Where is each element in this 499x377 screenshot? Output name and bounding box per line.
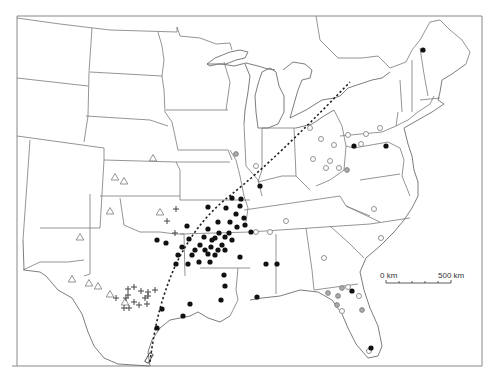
gray-dot-icon (340, 286, 345, 291)
triangle-icon (76, 234, 84, 241)
open-circle-icon (337, 166, 342, 171)
black-dot-icon (154, 237, 159, 242)
black-dot-icon (237, 203, 242, 208)
black-dot-icon (192, 247, 197, 252)
black-dot-icon (185, 261, 190, 266)
open-circle-icon (340, 309, 345, 314)
triangle-icon (106, 291, 114, 298)
black-dot-icon (197, 242, 202, 247)
gray-dot-icon (335, 303, 340, 308)
triangle-icon (111, 174, 119, 181)
open-circle-icon (372, 207, 377, 212)
scale-start-label: 0 km (380, 271, 398, 280)
gray-dot-icon (326, 291, 331, 296)
black-dot-icon (180, 313, 185, 318)
scale-end-label: 500 km (438, 271, 465, 280)
black-dot-icon (209, 237, 214, 242)
black-dot-markers (154, 47, 425, 350)
black-dot-icon (179, 244, 184, 249)
black-dot-icon (234, 224, 239, 229)
black-dot-icon (226, 230, 231, 235)
black-dot-icon (229, 237, 234, 242)
cross-icon (126, 305, 132, 311)
black-dot-icon (215, 247, 220, 252)
gray-dot-icon (234, 152, 239, 157)
black-dot-icon (154, 325, 159, 330)
cross-icon (136, 302, 142, 308)
black-dot-icon (241, 215, 246, 220)
open-circle-icon (311, 157, 316, 162)
open-circle-icon (359, 142, 364, 147)
triangle-icon (121, 299, 129, 306)
black-dot-icon (351, 143, 356, 148)
black-dot-icon (189, 252, 194, 257)
black-dot-icon (187, 301, 192, 306)
triangle-markers (68, 155, 164, 306)
black-dot-icon (383, 143, 388, 148)
cross-icon (131, 284, 137, 290)
cross-icon (125, 286, 131, 292)
gray-dot-icon (345, 168, 350, 173)
black-dot-icon (349, 288, 354, 293)
black-dot-icon (212, 252, 217, 257)
black-dot-icon (223, 205, 228, 210)
triangle-icon (106, 208, 114, 215)
black-dot-icon (221, 272, 226, 277)
cross-icon (138, 288, 144, 294)
cross-markers (113, 206, 179, 311)
black-dot-icon (163, 240, 168, 245)
black-dot-icon (207, 259, 212, 264)
gray-dot-icon (336, 294, 341, 299)
black-dot-icon (196, 259, 201, 264)
gray-dot-icon (360, 308, 365, 313)
black-dot-icon (257, 183, 262, 188)
black-dot-icon (229, 195, 234, 200)
open-circle-icon (284, 219, 289, 224)
cross-icon (152, 287, 158, 293)
route-dashed-line (150, 82, 350, 362)
black-dot-icon (227, 219, 232, 224)
triangle-icon (120, 178, 128, 185)
black-dot-icon (368, 345, 373, 350)
black-dot-icon (420, 47, 425, 52)
open-circle-icon (268, 230, 273, 235)
open-circle-icon (378, 126, 383, 131)
black-dot-icon (216, 230, 221, 235)
black-dot-icon (263, 261, 268, 266)
open-circle-icon (379, 236, 384, 241)
open-circle-icon (364, 132, 369, 137)
open-circle-icon (328, 159, 333, 164)
triangle-icon (156, 209, 164, 216)
black-dot-icon (274, 261, 279, 266)
cross-icon (164, 218, 170, 224)
cross-icon (113, 295, 119, 301)
open-circle-icon (308, 126, 313, 131)
open-circle-icon (346, 133, 351, 138)
open-circle-icon (319, 137, 324, 142)
open-circle-icon (254, 164, 259, 169)
black-dot-icon (238, 196, 243, 201)
map-svg: 0 km 500 km (0, 0, 499, 377)
black-dot-icon (173, 261, 178, 266)
cross-icon (144, 301, 150, 307)
black-dot-icon (218, 297, 223, 302)
black-dot-icon (222, 247, 227, 252)
black-dot-icon (237, 254, 242, 259)
cross-icon (173, 206, 179, 212)
black-dot-icon (254, 294, 259, 299)
black-dot-icon (184, 223, 189, 228)
scale-bar: 0 km 500 km (380, 271, 465, 283)
triangle-icon (94, 283, 102, 290)
triangle-icon (149, 155, 157, 162)
open-circle-icon (332, 143, 337, 148)
black-dot-icon (205, 226, 210, 231)
black-dot-icon (242, 222, 247, 227)
black-dot-icon (208, 244, 213, 249)
black-dot-icon (201, 234, 206, 239)
black-dot-icon (205, 204, 210, 209)
state-borders (17, 16, 470, 366)
cross-icon (131, 299, 137, 305)
open-circle-icon (322, 256, 327, 261)
open-circle-markers (254, 126, 384, 354)
black-dot-icon (248, 229, 253, 234)
